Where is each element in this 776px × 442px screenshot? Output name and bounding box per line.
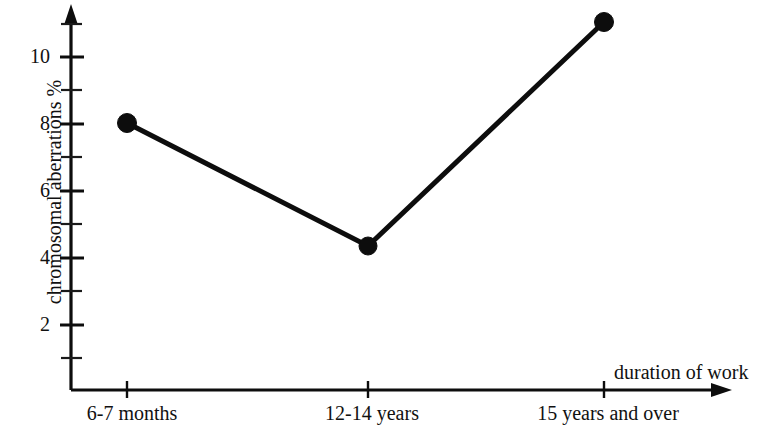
data-point-2	[359, 237, 377, 255]
x-category-label-1: 6-7 months	[87, 403, 178, 423]
x-axis-label: duration of work	[614, 362, 748, 382]
data-point-3	[595, 13, 614, 32]
y-axis-arrow-icon	[64, 4, 78, 25]
y-tick-label-6: 6	[8, 180, 50, 200]
chart-figure: chromosomal aberrations % duration of wo…	[0, 0, 776, 442]
y-tick-label-2: 2	[8, 314, 50, 334]
y-tick-label-10: 10	[8, 46, 50, 66]
y-tick-label-4: 4	[8, 247, 50, 267]
x-category-label-2: 12-14 years	[325, 403, 419, 423]
x-axis-arrow-icon	[711, 383, 732, 397]
data-point-1	[118, 114, 137, 133]
y-tick-label-8: 8	[8, 113, 50, 133]
x-category-label-3: 15 years and over	[537, 403, 679, 423]
data-series-line	[127, 22, 604, 246]
